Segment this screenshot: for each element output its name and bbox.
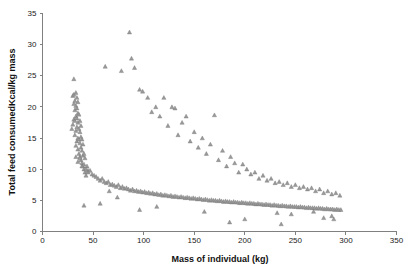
- data-point-marker: [338, 193, 342, 197]
- data-point-marker: [107, 189, 111, 193]
- data-point-marker: [330, 214, 334, 218]
- data-point-marker: [188, 139, 192, 143]
- data-point-marker: [261, 173, 265, 177]
- data-point-marker: [277, 180, 281, 184]
- data-point-marker: [154, 105, 158, 109]
- data-point-marker: [208, 142, 212, 146]
- data-point-marker: [176, 133, 180, 137]
- data-point-marker: [146, 95, 150, 99]
- data-point-marker: [326, 189, 330, 193]
- data-point-marker: [265, 178, 269, 182]
- data-point-marker: [192, 130, 196, 134]
- data-point-marker: [129, 56, 133, 60]
- data-point-marker: [71, 122, 75, 126]
- data-point-marker: [137, 208, 141, 212]
- x-tick-label: 0: [40, 236, 45, 245]
- y-tick-label: 20: [28, 103, 37, 112]
- data-point-marker: [212, 113, 216, 117]
- data-point-marker: [73, 133, 77, 137]
- data-point-marker: [74, 91, 78, 95]
- data-point-marker: [293, 183, 297, 187]
- data-point-marker: [180, 120, 184, 124]
- y-axis-title: Total feed consumedKcal/kg mass: [7, 49, 17, 196]
- data-point-marker: [318, 187, 322, 191]
- data-point-marker: [132, 66, 136, 70]
- data-point-marker: [245, 167, 249, 171]
- data-point-marker: [243, 217, 247, 221]
- y-tick-label: 25: [28, 71, 37, 80]
- data-point-marker: [313, 189, 317, 193]
- data-point-marker: [202, 209, 206, 213]
- data-point-marker: [249, 172, 253, 176]
- data-point-marker: [322, 191, 326, 195]
- data-point-marker: [103, 64, 107, 68]
- data-point-marker: [237, 170, 241, 174]
- data-point-marker: [158, 114, 162, 118]
- data-point-marker: [155, 204, 159, 208]
- y-tick-group: 05101520253035: [28, 9, 43, 236]
- data-point-marker: [334, 191, 338, 195]
- plot-area: 05101520253035 050100150200250300350 Tot…: [0, 0, 414, 273]
- data-point-marker: [137, 87, 141, 91]
- data-point-marker: [241, 162, 245, 166]
- data-point-marker: [269, 176, 273, 180]
- x-tick-label: 50: [89, 236, 98, 245]
- x-tick-label: 300: [339, 236, 353, 245]
- data-point-marker: [224, 164, 228, 168]
- data-point-marker: [253, 170, 257, 174]
- data-point-marker: [297, 186, 301, 190]
- x-tick-label: 100: [137, 236, 151, 245]
- data-point-marker: [330, 192, 334, 196]
- data-point-marker: [166, 124, 170, 128]
- data-point-marker: [273, 181, 277, 185]
- data-point-marker: [70, 127, 74, 131]
- data-point-marker: [257, 176, 261, 180]
- data-point-marker: [309, 186, 313, 190]
- data-point-marker: [115, 195, 119, 199]
- data-point-marker: [170, 105, 174, 109]
- data-point-marker: [119, 69, 123, 73]
- data-point-marker: [150, 110, 154, 114]
- x-tick-label: 150: [188, 236, 202, 245]
- data-point-marker: [204, 152, 208, 156]
- x-tick-label: 200: [238, 236, 252, 245]
- data-point-marker: [301, 185, 305, 189]
- y-tick-label: 35: [28, 9, 37, 18]
- data-point-marker: [228, 220, 232, 224]
- data-point-marker: [116, 183, 120, 187]
- y-tick-label: 0: [32, 227, 37, 236]
- data-point-marker: [285, 181, 289, 185]
- x-tick-label: 250: [289, 236, 303, 245]
- x-tick-label: 350: [390, 236, 404, 245]
- data-point-marker: [184, 114, 188, 118]
- data-point-marker: [289, 212, 293, 216]
- data-point-marker: [100, 176, 104, 180]
- y-tick-label: 10: [28, 165, 37, 174]
- y-tick-label: 15: [28, 134, 37, 143]
- scatter-chart: 05101520253035 050100150200250300350 Tot…: [0, 0, 414, 273]
- y-tick-label: 30: [28, 40, 37, 49]
- data-point-marker: [98, 201, 102, 205]
- y-tick-label: 5: [32, 196, 37, 205]
- data-points-group: [70, 30, 343, 226]
- data-point-marker: [233, 161, 237, 165]
- data-point-marker: [162, 95, 166, 99]
- data-point-marker: [229, 155, 233, 159]
- data-point-marker: [279, 222, 283, 226]
- data-point-marker: [281, 183, 285, 187]
- data-point-marker: [72, 77, 76, 81]
- data-point-marker: [200, 136, 204, 140]
- data-point-marker: [216, 158, 220, 162]
- x-axis-title: Mass of individual (kg): [171, 254, 268, 264]
- data-point-marker: [289, 185, 293, 189]
- data-point-marker: [82, 203, 86, 207]
- data-point-marker: [305, 187, 309, 191]
- data-point-marker: [220, 148, 224, 152]
- data-point-marker: [74, 143, 78, 147]
- x-tick-group: 050100150200250300350: [40, 232, 403, 246]
- data-point-marker: [275, 211, 279, 215]
- data-point-marker: [127, 30, 131, 34]
- data-point-marker: [322, 216, 326, 220]
- data-point-marker: [196, 145, 200, 149]
